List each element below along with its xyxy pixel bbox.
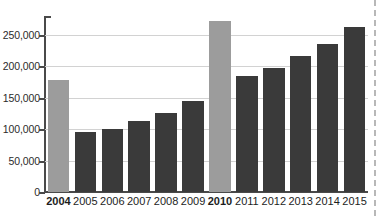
y-axis-tick <box>39 35 45 37</box>
bar-2008 <box>155 113 177 192</box>
bar-2004 <box>48 80 70 192</box>
y-axis-tick-label: 250,000 <box>0 29 40 41</box>
bar-2009 <box>182 101 204 192</box>
bar-2010 <box>209 21 231 192</box>
y-axis-tick-label: 50,000 <box>0 155 40 167</box>
y-axis-tick-labels: 050,000100,000150,000200,000250,000 <box>0 0 42 216</box>
x-axis-tick-label-2006: 2006 <box>99 195 126 207</box>
x-axis-tick-label-2004: 2004 <box>45 195 72 207</box>
bar-2005 <box>75 132 97 192</box>
y-axis-tick <box>39 161 45 163</box>
x-axis-tick-label-2014: 2014 <box>314 195 341 207</box>
y-axis-tick <box>39 192 45 194</box>
bar-2012 <box>263 68 285 192</box>
y-axis-tick-label: 200,000 <box>0 60 40 72</box>
bar-2015 <box>344 27 366 192</box>
bar-2006 <box>102 129 124 192</box>
x-axis-tick-label-2008: 2008 <box>153 195 180 207</box>
bar-2013 <box>290 56 312 192</box>
y-axis-tick <box>39 66 45 68</box>
x-axis-tick-label-2005: 2005 <box>72 195 99 207</box>
x-axis-tick-label-2012: 2012 <box>260 195 287 207</box>
x-axis-tick-label-2015: 2015 <box>341 195 368 207</box>
y-axis-tick <box>39 98 45 100</box>
x-axis-tick-label-2013: 2013 <box>287 195 314 207</box>
gridline <box>45 35 368 36</box>
bar-2011 <box>236 76 258 192</box>
bar-2007 <box>128 121 150 192</box>
plot-area <box>45 16 368 192</box>
right-dashed-edge <box>374 0 376 216</box>
x-axis-tick-label-2007: 2007 <box>126 195 153 207</box>
x-axis-tick-label-2010: 2010 <box>207 195 234 207</box>
x-axis-tick-labels: 2004200520062007200820092010201120122013… <box>45 195 368 213</box>
bar-2014 <box>317 44 339 192</box>
x-axis-tick-label-2009: 2009 <box>180 195 207 207</box>
y-axis-tick-label: 150,000 <box>0 92 40 104</box>
x-axis-tick-label-2011: 2011 <box>233 195 260 207</box>
y-axis-tick <box>39 129 45 131</box>
y-axis-tick-label: 100,000 <box>0 123 40 135</box>
bar-chart-figure: 050,000100,000150,000200,000250,000 2004… <box>0 0 378 216</box>
y-axis-tick-label: 0 <box>0 186 40 198</box>
